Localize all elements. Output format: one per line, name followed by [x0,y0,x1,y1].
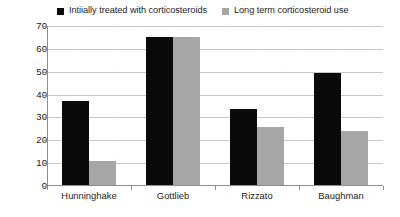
x-axis-category-label: Gottlieb [157,191,189,200]
bar [257,127,284,186]
plot-area [47,26,383,186]
legend-swatch-gray-icon [222,8,229,15]
bar [146,37,173,186]
x-axis-category-label: Baughman [318,191,363,200]
bar [173,37,200,186]
x-axis-tick-mark [299,186,300,190]
legend-label-initially-treated: Intiially treated with corticosteroids [69,6,207,15]
legend-entry-long-term-use: Long term corticosteroid use [222,3,349,19]
y-axis-line [47,26,48,186]
legend-label-long-term-use: Long term corticosteroid use [234,6,349,15]
x-axis-tick-mark [383,186,384,190]
legend-entry-initially-treated: Intiially treated with corticosteroids [57,3,207,19]
bar [89,161,116,186]
x-axis-category-label: Rizzato [241,191,272,200]
legend-swatch-black-icon [57,8,64,15]
bar [230,109,257,186]
bar [341,131,368,186]
bar [62,101,89,186]
bar-chart: Intiially treated with corticosteroids L… [0,0,400,217]
x-axis-tick-mark [215,186,216,190]
bar [314,73,341,186]
x-axis-category-label: Hunninghake [61,191,116,200]
x-axis-tick-mark [131,186,132,190]
gridline [47,49,383,50]
x-axis-tick-mark [47,186,48,190]
gridline [47,26,383,27]
chart-legend: Intiially treated with corticosteroids L… [0,3,400,19]
